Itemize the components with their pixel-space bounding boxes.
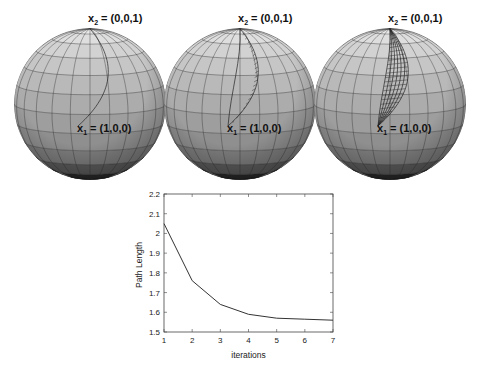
label-x2: x2 = (0,0,1) — [388, 12, 443, 26]
label-x2: x2 = (0,0,1) — [238, 12, 293, 26]
plot-area — [164, 194, 333, 332]
label-x2: x2 = (0,0,1) — [88, 12, 143, 26]
x-tick-label: 1 — [162, 336, 167, 345]
sphere-3: x2 = (0,0,1)x1 = (1,0,0) — [314, 12, 466, 180]
x-tick-label: 3 — [218, 336, 223, 345]
y-tick-label: 1.8 — [149, 269, 161, 278]
y-tick-label: 1.9 — [149, 249, 161, 258]
x-tick-label: 5 — [274, 336, 279, 345]
y-tick-label: 1.5 — [149, 328, 161, 337]
y-tick-label: 2.1 — [149, 210, 161, 219]
x-tick-label: 6 — [303, 336, 308, 345]
figure-canvas: x2 = (0,0,1)x1 = (1,0,0)x2 = (0,0,1)x1 =… — [0, 0, 480, 366]
y-tick-label: 1.7 — [149, 289, 161, 298]
sphere-2: x2 = (0,0,1)x1 = (1,0,0) — [164, 12, 316, 180]
y-tick-label: 2 — [156, 229, 161, 238]
y-tick-label: 2.2 — [149, 190, 161, 199]
path-length-chart: 1.51.61.71.81.922.12.21234567iterationsP… — [134, 190, 336, 360]
sphere-1: x2 = (0,0,1)x1 = (1,0,0) — [14, 12, 166, 180]
x-tick-label: 2 — [190, 336, 195, 345]
x-tick-label: 4 — [246, 336, 251, 345]
y-axis-label: Path Length — [134, 242, 144, 288]
y-tick-label: 1.6 — [149, 308, 161, 317]
x-axis-label: iterations — [231, 350, 266, 360]
x-tick-label: 7 — [331, 336, 336, 345]
